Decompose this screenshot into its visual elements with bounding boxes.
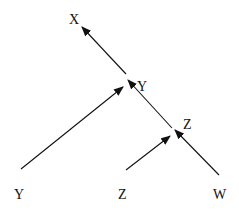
- edge-zbottom-to-z: [126, 136, 170, 170]
- node-label-w-bottom: W: [213, 187, 227, 202]
- node-label-z-bottom: Z: [118, 187, 127, 202]
- edge-ybottom-to-y: [21, 87, 123, 169]
- edge-y-to-x: [82, 27, 126, 74]
- node-label-z-mid: Z: [183, 117, 192, 132]
- tree-diagram: X Y Z Y Z W: [0, 0, 239, 211]
- node-label-y-mid: Y: [137, 79, 147, 94]
- node-label-y-bottom: Y: [14, 187, 24, 202]
- edge-z-to-y: [128, 80, 172, 128]
- edge-w-to-z: [175, 130, 219, 175]
- node-label-x: X: [69, 12, 79, 27]
